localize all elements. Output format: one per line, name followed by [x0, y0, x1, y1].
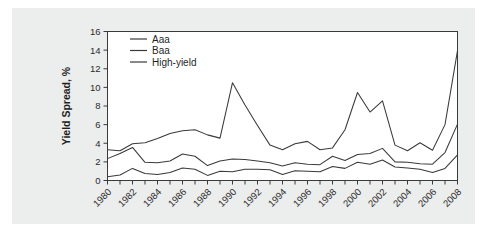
y-axis: 0246810121416 — [90, 26, 108, 186]
legend-label-aaa: Aaa — [152, 34, 170, 45]
y-tick-label: 14 — [90, 45, 101, 56]
y-tick-label: 8 — [95, 100, 100, 111]
x-tick-label: 1994 — [266, 186, 289, 209]
legend-label-high-yield: High-yield — [152, 57, 196, 68]
x-tick-label: 2008 — [441, 186, 464, 209]
y-tick-label: 4 — [95, 138, 100, 149]
x-tick-label: 1996 — [291, 186, 314, 209]
x-tick-label: 2004 — [391, 186, 414, 209]
x-tick-label: 1988 — [191, 186, 214, 209]
x-tick-label: 2002 — [366, 186, 389, 209]
x-tick-label: 1986 — [166, 186, 189, 209]
y-tick-label: 10 — [90, 82, 101, 93]
y-tick-label: 6 — [95, 119, 100, 130]
legend-label-baa: Baa — [152, 45, 170, 56]
x-tick-label: 1998 — [316, 186, 339, 209]
y-axis-title: Yield Spread, % — [60, 66, 72, 145]
chart-svg: 0246810121416Yield Spread, %198019821984… — [0, 0, 487, 232]
x-tick-label: 2006 — [416, 186, 439, 209]
y-tick-label: 2 — [95, 156, 100, 167]
x-tick-label: 1990 — [216, 186, 239, 209]
y-tick-label: 12 — [90, 63, 101, 74]
x-tick-label: 1982 — [116, 186, 139, 209]
yield-spread-line-chart: 0246810121416Yield Spread, %198019821984… — [0, 0, 487, 232]
x-axis: 1980198219841986198819901992199419961998… — [91, 181, 464, 209]
y-tick-label: 16 — [90, 26, 101, 37]
x-tick-label: 2000 — [341, 186, 364, 209]
x-tick-label: 1984 — [141, 186, 164, 209]
y-tick-label: 0 — [95, 175, 100, 186]
x-tick-label: 1980 — [91, 186, 114, 209]
x-tick-label: 1992 — [241, 186, 264, 209]
figure-root: 0246810121416Yield Spread, %198019821984… — [0, 0, 487, 232]
